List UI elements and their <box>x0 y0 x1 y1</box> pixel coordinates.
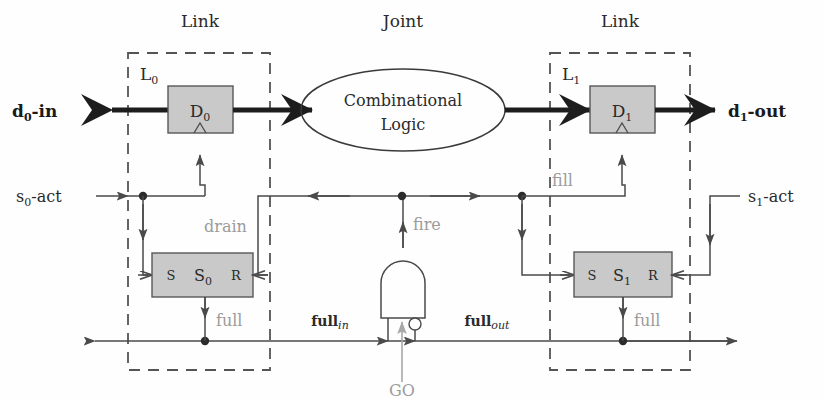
fill-to-s1-set-path <box>522 196 570 275</box>
state-register-s1-set-pin: S <box>588 268 597 283</box>
joint-and-gate <box>381 261 425 318</box>
full-in-label: fullin <box>311 313 348 332</box>
section-label-link-right: Link <box>601 11 640 31</box>
s0-act-to-d0-clock <box>200 155 205 196</box>
full-label-right: full <box>634 311 660 330</box>
combinational-logic-ellipse <box>301 69 505 151</box>
full-out-label: fullout <box>465 313 511 332</box>
signal-label-d1-out: d1-out <box>728 101 786 124</box>
signal-label-s1-act: s1-act <box>748 187 794 209</box>
signal-label-s0-act: s0-act <box>16 187 62 209</box>
inversion-bubble-icon <box>409 318 421 330</box>
fire-label: fire <box>413 215 441 234</box>
fill-label: fill <box>552 171 573 190</box>
drain-wire <box>258 196 402 275</box>
fill-to-d1-clock <box>522 155 625 196</box>
full-label-left: full <box>216 311 242 330</box>
signal-label-d0-in: d0-in <box>12 101 57 124</box>
diagram-canvas: Link Joint Link L0 L1 D0 Combinational L… <box>0 0 823 400</box>
link-left-name: L0 <box>140 64 158 87</box>
section-label-joint: Joint <box>381 11 423 31</box>
fire-junction <box>398 192 406 200</box>
state-register-s0-reset-pin: R <box>231 268 242 283</box>
state-register-s1-reset-pin: R <box>648 268 659 283</box>
state-register-s0-set-pin: S <box>167 268 176 283</box>
pipeline-diagram: Link Joint Link L0 L1 D0 Combinational L… <box>0 0 823 400</box>
drain-label: drain <box>204 217 247 236</box>
link-right-name: L1 <box>562 64 580 87</box>
section-label-link-left: Link <box>181 11 220 31</box>
go-label: GO <box>389 381 415 400</box>
combinational-logic-line1: Combinational <box>344 91 462 110</box>
combinational-logic-line2: Logic <box>381 115 426 134</box>
s1-act-wire <box>672 196 740 275</box>
